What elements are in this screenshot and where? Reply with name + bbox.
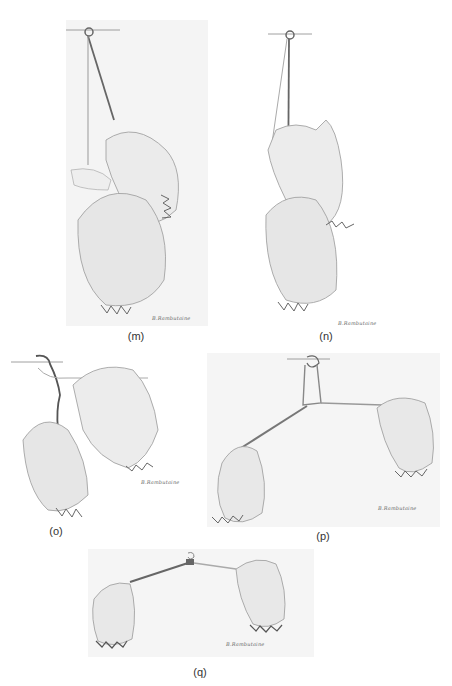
artist-signature: B.Rambutaine bbox=[226, 641, 264, 647]
panel-label-m: (m) bbox=[116, 330, 156, 342]
panel-label-n: (n) bbox=[306, 330, 346, 342]
artist-signature: B.Rambutaine bbox=[141, 479, 179, 485]
hands-illustration-m bbox=[66, 20, 208, 326]
panel-o: B.Rambutaine bbox=[8, 350, 188, 520]
panel-label-o: (o) bbox=[36, 525, 76, 537]
artist-signature: B.Rambutaine bbox=[152, 315, 190, 321]
artist-signature: B.Rambutaine bbox=[338, 320, 376, 326]
hands-illustration-p bbox=[207, 353, 440, 527]
hands-illustration-q bbox=[88, 549, 314, 657]
panel-label-q: (q) bbox=[180, 666, 220, 678]
panel-p: B.Rambutaine bbox=[207, 353, 440, 527]
artist-signature: B.Rambutaine bbox=[378, 505, 416, 511]
hands-illustration-n bbox=[256, 20, 406, 326]
panel-n: B.Rambutaine bbox=[256, 20, 406, 326]
panel-q: B.Rambutaine bbox=[88, 549, 314, 657]
panel-m: B.Rambutaine bbox=[66, 20, 208, 326]
panel-label-p: (p) bbox=[303, 530, 343, 542]
hands-illustration-o bbox=[8, 350, 188, 520]
